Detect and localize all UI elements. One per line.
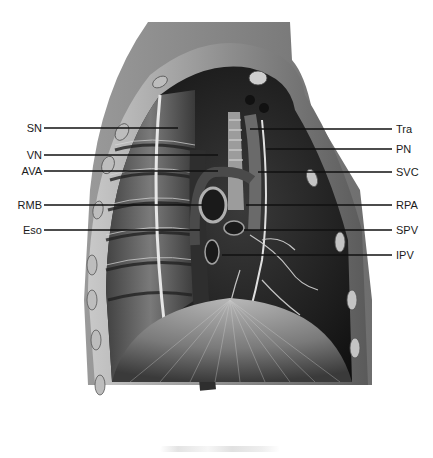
label-ipv: IPV [396,249,414,261]
figure-caption-illegible [160,446,280,452]
label-vn: VN [6,149,42,161]
label-rmb: RMB [6,199,42,211]
anatomy-figure: SN VN AVA RMB Eso Tra PN SVC RPA SPV IPV [0,0,433,458]
label-ava: AVA [6,165,42,177]
label-tra: Tra [396,123,412,135]
label-rpa: RPA [396,199,418,211]
mediastinum-illustration [0,0,433,458]
label-eso: Eso [6,224,42,236]
label-sn: SN [6,122,42,134]
label-spv: SPV [396,224,418,236]
label-pn: PN [396,143,411,155]
label-svc: SVC [396,166,419,178]
